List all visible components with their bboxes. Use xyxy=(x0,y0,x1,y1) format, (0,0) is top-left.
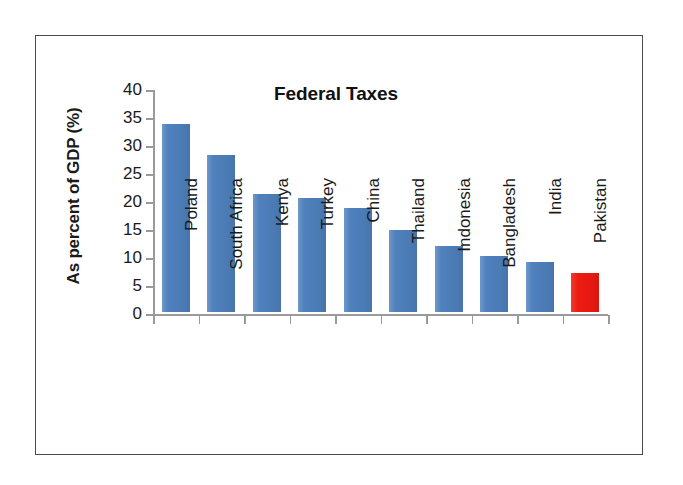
bar-chart: Federal Taxes As percent of GDP (%) 4035… xyxy=(36,36,642,454)
x-axis-category-label: China xyxy=(365,178,382,328)
x-axis-category-label: Pakistan xyxy=(592,178,609,328)
figure-frame: Federal Taxes As percent of GDP (%) 4035… xyxy=(35,35,643,455)
x-axis-category-label: Bangladesh xyxy=(501,178,518,328)
x-axis-category-label: India xyxy=(547,178,564,328)
x-axis-category-label: South Africa xyxy=(228,178,245,328)
x-axis-category-label: Poland xyxy=(183,178,200,328)
x-axis-category-label: Indonesia xyxy=(456,178,473,328)
x-axis-category-label: Thailand xyxy=(410,178,427,328)
x-axis-category-label: Turkey xyxy=(319,178,336,328)
x-axis-category-label: Kenya xyxy=(274,178,291,328)
